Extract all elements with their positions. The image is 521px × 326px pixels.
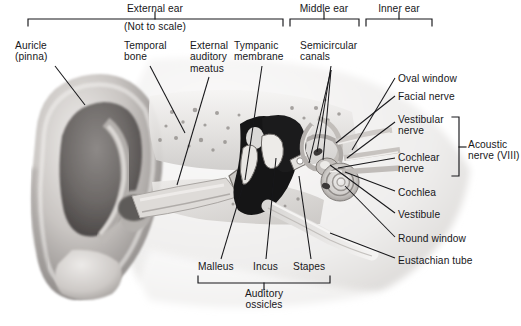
label-facial-nerve: Facial nerve xyxy=(398,91,455,102)
label-temporal-bone: Temporal bone xyxy=(124,40,167,63)
ear-anatomy-figure: Auricle (pinna)Temporal boneExternal aud… xyxy=(0,0,521,326)
label-external-auditory-meatus: External auditory meatus xyxy=(190,40,228,74)
label-incus: Incus xyxy=(253,261,278,272)
label-eustachian-tube: Eustachian tube xyxy=(398,255,473,266)
label-cochlea: Cochlea xyxy=(398,187,436,198)
label-tympanic-membrane: Tympanic membrane xyxy=(234,40,284,63)
label-auricle: Auricle (pinna) xyxy=(15,40,47,63)
label-malleus: Malleus xyxy=(198,261,234,272)
label-auditory-ossicles: Auditory ossicles xyxy=(245,288,283,311)
label-acoustic-nerve: Acoustic nerve (VIII) xyxy=(468,139,520,162)
label-not-to-scale: (Not to scale) xyxy=(124,21,186,32)
label-middle-ear: Middle ear xyxy=(300,3,349,14)
label-vestibular-nerve: Vestibular nerve xyxy=(398,114,444,137)
label-stapes: Stapes xyxy=(293,261,325,272)
label-vestibule: Vestibule xyxy=(398,209,440,220)
label-inner-ear: Inner ear xyxy=(378,3,420,14)
label-external-ear: External ear xyxy=(127,3,183,14)
incus xyxy=(261,134,283,169)
label-cochlear-nerve: Cochlear nerve xyxy=(398,152,440,175)
label-semicircular-canals: Semicircular canals xyxy=(300,40,357,63)
label-oval-window: Oval window xyxy=(398,73,457,84)
label-round-window: Round window xyxy=(398,233,466,244)
